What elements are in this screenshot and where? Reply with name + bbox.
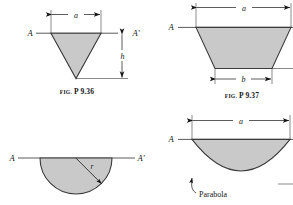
radius-label: r [91,162,94,171]
axis-label-a-left-semicircle: A [8,153,15,163]
axis-label-a-right-semicircle: A' [136,153,144,163]
caption-prefix-p937: FIG. [225,93,237,99]
axis-label-a-parabola: A [167,134,174,144]
dim-a3-label: a [239,117,243,126]
dim-a2-label: a [242,4,246,13]
caption-number-p937: P 9.37 [239,91,259,100]
parabola-shape [192,139,290,171]
caption-fig-p937: FIG. P 9.37 [203,91,281,100]
dim-b-label: b [242,75,246,84]
caption-number-p936: P 9.36 [74,87,94,96]
parabola-annotation: Parabola [199,190,227,199]
figure-p936-group: a A A' h [26,9,139,79]
caption-prefix-p936: FIG. [60,89,72,95]
dim-h-label: h [121,52,125,61]
figure-sheet: a A A' h a A [0,0,293,205]
inverted-triangle-shape [51,33,101,78]
trapezoid-shape [196,27,291,68]
figure-parabola-group: a A Parabola [167,115,293,199]
axis-label-a2-left: A [167,22,174,32]
semicircle-shape [40,158,112,194]
caption-fig-p936: FIG. P 9.36 [38,87,116,96]
figures-canvas: a A A' h a A [0,0,293,205]
parabola-leader-line [192,178,197,193]
axis-label-a-left: A [26,28,33,38]
figure-p937-group: a A b [167,2,293,85]
dim-a-label: a [74,11,78,20]
figure-semicircle-group: A A' r [8,153,144,195]
axis-label-a-right: A' [131,28,139,38]
